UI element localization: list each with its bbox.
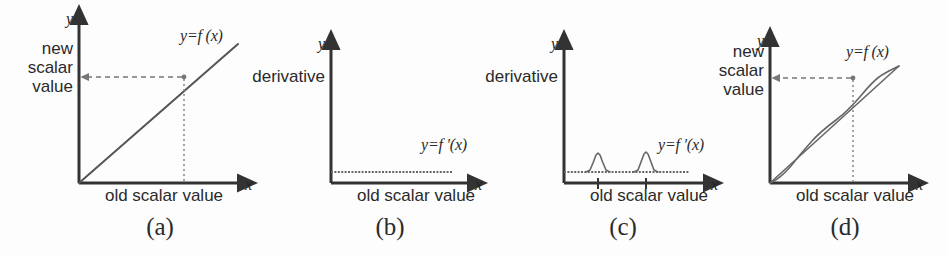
panel-a-caption: (a) <box>100 212 220 242</box>
panel-c-bump-1 <box>586 153 610 172</box>
panel-c-caption: (c) <box>563 212 683 242</box>
panel-d-x-axis-label: old scalar value <box>775 186 935 206</box>
panel-a-x-axis-label: old scalar value <box>84 186 244 206</box>
panel-a-x-axis-symbol: x <box>245 176 252 195</box>
panel-d-caption: (d) <box>785 212 905 242</box>
panel-d-y-axis-label-line-2: scalar <box>691 61 764 81</box>
panel-a-curve <box>79 44 238 183</box>
panel-c-curve-label: y=f '(x) <box>658 136 704 155</box>
figure-container: y x new scalar value old scalar value y=… <box>0 0 949 255</box>
panel-a-graphics <box>79 22 240 183</box>
panel-c-x-axis-label: old scalar value <box>569 186 729 206</box>
panel-c-y-axis-label: derivative <box>458 67 558 87</box>
panel-b-y-axis-symbol: y <box>318 35 325 54</box>
panel-b-y-axis-label: derivative <box>225 67 325 87</box>
panel-a-y-axis-label-line-3: value <box>0 77 73 97</box>
panel-b-graphics <box>331 47 470 183</box>
panel-a-y-axis-symbol: y <box>66 10 73 29</box>
panel-d-reference-line <box>770 66 899 183</box>
panel-c-bump-2 <box>634 152 658 172</box>
panel-b-x-axis-label: old scalar value <box>336 186 496 206</box>
panel-d-curve-label: y=f (x) <box>846 43 889 62</box>
panel-b-caption: (b) <box>330 212 450 242</box>
panel-d-y-axis-label-line-3: value <box>691 80 764 100</box>
panel-a-y-axis-label-line-1: new <box>0 39 73 59</box>
panel-d-graphics <box>770 44 911 183</box>
panel-a-curve-label: y=f (x) <box>180 27 223 46</box>
panel-c-y-axis-symbol: y <box>551 35 558 54</box>
panel-d-intersection-marker <box>851 76 856 81</box>
panel-d-y-axis-label-line-1: new <box>691 42 764 62</box>
panel-b-curve-label: y=f '(x) <box>421 136 467 155</box>
panel-a-y-axis-label-line-2: scalar <box>0 58 73 78</box>
panel-a-intersection-marker <box>182 75 187 80</box>
panel-c-graphics <box>564 47 706 189</box>
